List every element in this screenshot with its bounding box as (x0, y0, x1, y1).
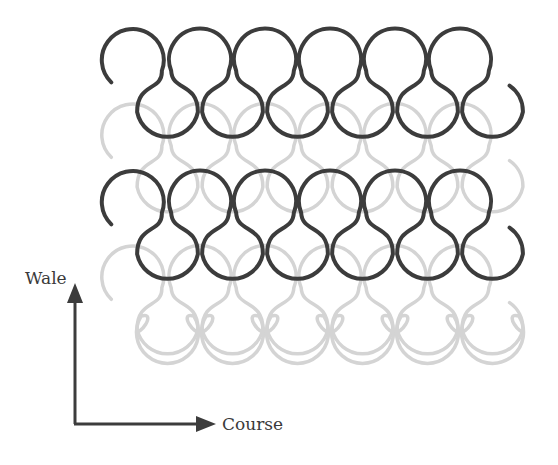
bottom-hanging-loop (397, 316, 459, 364)
knit-loop-diagram (0, 0, 558, 465)
course-arrow-head-icon (196, 416, 216, 432)
bottom-hanging-loop (202, 316, 264, 364)
course-label: Course (222, 414, 283, 434)
dark-yarn-courses (102, 28, 523, 278)
yarn-course-3 (102, 170, 523, 278)
wale-arrow-head-icon (67, 283, 83, 303)
direction-axes (67, 283, 216, 432)
yarn-course-1 (102, 28, 523, 136)
bottom-hanging-loop (137, 316, 199, 364)
bottom-hanging-loop (461, 316, 523, 364)
bottom-hanging-loop (332, 316, 394, 364)
wale-label: Wale (25, 268, 67, 288)
light-yarn-courses (102, 103, 524, 363)
bottom-hanging-loop (267, 316, 329, 364)
